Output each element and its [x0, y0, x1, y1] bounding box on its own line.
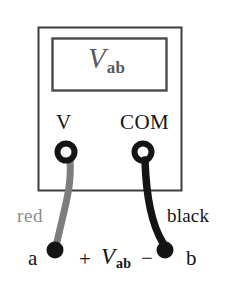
branch-voltage-symbol: V — [101, 244, 115, 269]
display-reading: Vab — [88, 44, 125, 76]
black-lead-label: black — [167, 206, 209, 225]
voltmeter-figure: Vab V COM red black a + Vab − b — [0, 0, 228, 288]
terminal-com-label: COM — [120, 112, 169, 133]
terminal-v-label: V — [56, 112, 71, 133]
branch-voltage-subscript: ab — [116, 256, 131, 271]
polarity-plus-sign: + — [79, 249, 91, 270]
red-lead-label: red — [17, 206, 43, 225]
polarity-minus-sign: − — [141, 248, 153, 269]
branch-voltage-label: Vab — [101, 245, 131, 271]
display-reading-symbol: V — [88, 42, 106, 74]
node-b-dot — [157, 242, 174, 259]
node-a-dot — [47, 242, 64, 259]
display-reading-subscript: ab — [107, 58, 126, 77]
node-a-label: a — [28, 248, 37, 269]
node-b-label: b — [186, 248, 197, 269]
